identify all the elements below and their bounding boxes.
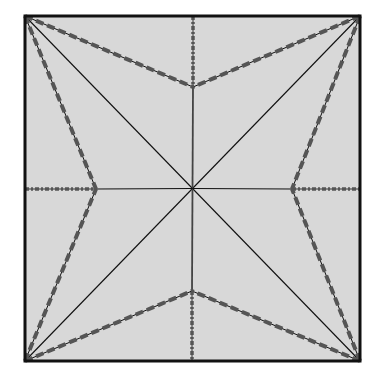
crease-center-up bbox=[193, 87, 194, 189]
crease-pattern-diagram bbox=[0, 0, 383, 382]
crease-pattern-svg bbox=[0, 0, 383, 382]
crease-center-right bbox=[193, 189, 293, 190]
crease-lines bbox=[25, 16, 360, 361]
crease-center-left bbox=[96, 189, 193, 190]
crease-center-down bbox=[192, 189, 193, 292]
